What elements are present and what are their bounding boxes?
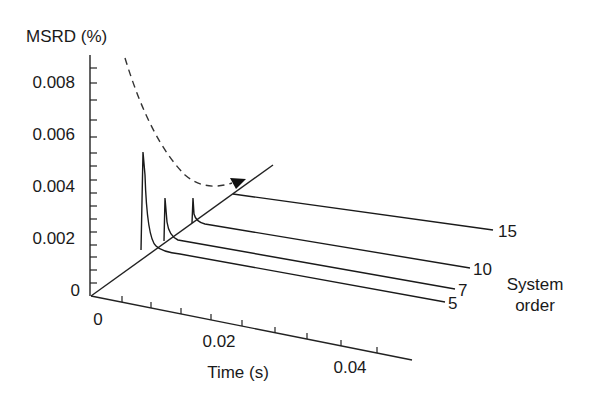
series-10-line — [192, 198, 470, 268]
z-axis-title-line2: order — [515, 296, 555, 315]
y-tick-label: 0 — [71, 281, 80, 300]
x-tick-label: 0 — [93, 310, 102, 329]
x-tick-label: 0.04 — [333, 358, 366, 377]
x-axis-ticks — [122, 296, 377, 353]
series-label-10: 10 — [473, 260, 492, 279]
series-label-5: 5 — [448, 294, 457, 313]
arrowhead-icon — [230, 178, 246, 189]
x-axis — [91, 296, 412, 360]
y-axis-ticks — [90, 68, 97, 283]
y-tick-label: 0.006 — [32, 125, 75, 144]
y-tick-label: 0.004 — [32, 177, 75, 196]
waterfall-chart: 0.008 0.006 0.004 0.002 0 MSRD (%) 0 0.0… — [0, 0, 595, 402]
y-tick-label: 0.002 — [32, 229, 75, 248]
x-axis-title: Time (s) — [207, 363, 269, 382]
z-axis-title-line1: System — [507, 275, 564, 294]
y-tick-label: 0.008 — [32, 73, 75, 92]
series-15-line — [233, 194, 493, 230]
y-axis-title: MSRD (%) — [26, 27, 107, 46]
series-label-7: 7 — [458, 281, 467, 300]
x-tick-label: 0.02 — [202, 332, 235, 351]
series-label-15: 15 — [498, 222, 517, 241]
peak-envelope-dashed-curve — [125, 58, 232, 186]
